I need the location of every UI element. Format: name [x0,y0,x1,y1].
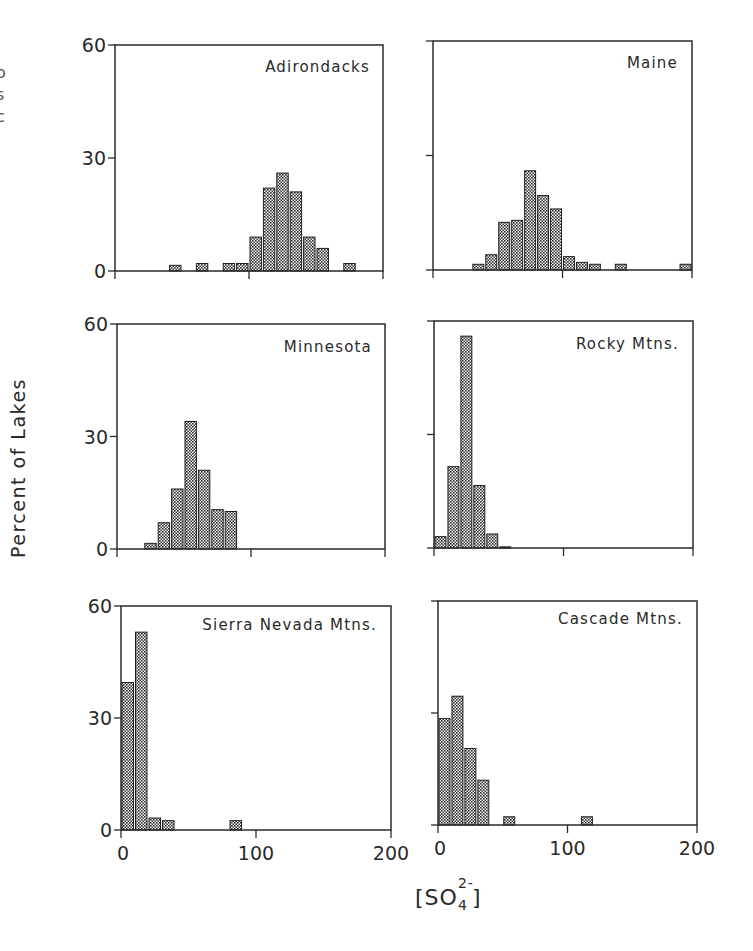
y-tick-label: 30 [84,426,108,448]
histogram-bar [230,821,242,830]
histogram-bar [448,467,459,548]
histogram-bar [145,543,156,549]
histogram-bar [525,171,536,270]
histogram-bar [504,817,515,825]
histogram-bar [263,188,274,271]
histogram-bar [185,422,196,550]
histogram-bar [225,512,236,550]
panel-title: Rocky Mtns. [576,335,679,353]
histogram-bar [439,719,450,825]
histogram-bar [237,263,248,271]
histogram-panels: 03060AdirondacksMaine03060MinnesotaRocky… [0,0,753,951]
histogram-bar [435,537,446,548]
y-tick-label: 30 [88,707,112,729]
histogram-bar [212,510,223,549]
x-tick-label: 100 [238,842,274,864]
y-tick-label: 60 [82,34,106,56]
histogram-bar [512,220,523,270]
cropped-glyph: I [0,40,4,62]
y-tick-label: 60 [84,313,108,335]
histogram-bar [551,209,562,270]
x-tick-label: 0 [117,842,129,864]
histogram-bar [250,237,261,271]
x-axis-label-superscript: 2- [458,875,474,891]
histogram-bar [149,818,161,830]
y-tick-label: 30 [82,147,106,169]
histogram-bar [170,265,181,271]
x-tick-label: 200 [679,837,715,859]
histogram-bar [478,780,489,825]
histogram-bar [581,817,592,825]
y-tick-label: 60 [88,595,112,617]
histogram-bar [576,262,587,270]
x-tick-label: 200 [373,842,409,864]
x-axis-label: [SO2-4] [415,885,481,910]
histogram-bar [452,696,463,825]
histogram-bar [538,196,549,270]
plot-frame [121,606,391,830]
histogram-bar [158,523,169,549]
histogram-bar [344,263,355,271]
panel-adirondacks: 03060Adirondacks [82,34,383,282]
y-tick-label: 0 [94,260,106,282]
cropped-glyph: s [0,84,4,106]
histogram-bar [136,632,148,830]
histogram-bar [277,173,288,271]
histogram-bar [304,237,315,271]
plot-frame [434,321,693,548]
x-axis-label-prefix: [SO [415,885,458,910]
histogram-bar [461,336,472,548]
panel-title: Minnesota [284,338,372,356]
histogram-bar [290,192,301,271]
histogram-bar [198,470,209,549]
histogram-bar [473,264,484,270]
histogram-bar [680,264,691,270]
histogram-figure: 03060AdirondacksMaine03060MinnesotaRocky… [0,0,753,951]
histogram-bar [122,683,134,830]
plot-frame [115,45,383,271]
panel-sierra-nevada-mtns: 030600100200Sierra Nevada Mtns. [88,595,409,864]
histogram-bar [499,222,510,270]
histogram-bar [223,263,234,271]
histogram-bar [163,821,175,830]
x-axis-label-subscript: 4 [458,897,468,913]
histogram-bar [615,264,626,270]
panel-rocky-mtns: Rocky Mtns. [427,321,693,556]
cropped-glyph: o [0,62,4,84]
cropped-edge-text: I o s c [0,40,4,128]
histogram-bar [172,489,183,549]
histogram-bar [465,748,476,825]
y-axis-label: Percent of Lakes [7,378,29,558]
panel-title: Sierra Nevada Mtns. [202,616,377,634]
x-axis-label-supsub: 2-4 [458,895,472,905]
panel-title: Cascade Mtns. [558,610,683,628]
histogram-bar [564,257,575,270]
y-tick-label: 0 [100,819,112,841]
histogram-bar [487,534,498,548]
plot-frame [433,41,692,270]
histogram-bar [589,264,600,270]
panel-minnesota: 03060Minnesota [84,313,385,560]
plot-frame [438,601,697,825]
plot-frame [117,324,385,549]
histogram-bar [317,248,328,271]
panel-cascade-mtns: 0100200Cascade Mtns. [431,601,715,859]
cropped-glyph: c [0,106,4,128]
panel-title: Maine [627,54,678,72]
histogram-bar [486,255,497,270]
panel-maine: Maine [426,41,692,278]
x-tick-label: 100 [549,837,585,859]
y-tick-label: 0 [96,538,108,560]
histogram-bar [474,486,485,548]
histogram-bar [196,263,207,271]
panel-title: Adirondacks [265,58,370,76]
x-tick-label: 0 [434,837,446,859]
